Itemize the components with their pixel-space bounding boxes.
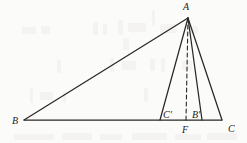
- side-AC: [188, 18, 222, 120]
- segment-group: [24, 18, 222, 120]
- side-AB: [24, 18, 188, 120]
- vertex-label-B-prime: B': [192, 110, 200, 120]
- vertex-label-C: C: [228, 124, 235, 134]
- figure-canvas: [0, 0, 247, 143]
- cevian-A-Bprime: [188, 18, 202, 120]
- vertex-label-F: F: [182, 125, 188, 135]
- vertex-label-B: B: [12, 116, 18, 126]
- vertex-label-C-prime: C': [163, 110, 172, 120]
- altitude-A-F: [186, 18, 188, 120]
- vertex-label-A: A: [183, 2, 189, 12]
- geometry-figure: A B C F C' B': [0, 0, 247, 143]
